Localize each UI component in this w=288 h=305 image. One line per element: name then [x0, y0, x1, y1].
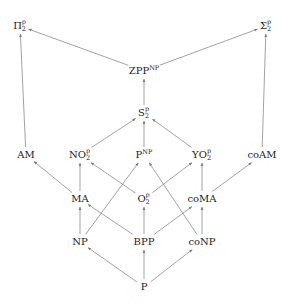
node-coAM: coAM	[247, 150, 276, 160]
node-superscript: NP	[149, 64, 159, 72]
node-scripts: p2	[145, 108, 150, 118]
edge-coMA-to-coAM	[212, 163, 251, 192]
node-superscript: NP	[142, 148, 152, 156]
node-PNP: PNP	[136, 150, 153, 160]
edge-ZPPNP-to-Sigma2	[160, 29, 258, 65]
node-S2: Sp2	[138, 108, 150, 118]
node-ZPPNP: ZPPNP	[129, 66, 159, 76]
node-label: NO	[69, 149, 86, 160]
node-subscript: 2	[22, 26, 26, 33]
edge-BPP-to-coMA	[154, 207, 192, 235]
node-label: Σ	[260, 20, 267, 31]
node-label: P	[141, 281, 148, 292]
edge-BPP-to-MA	[88, 204, 133, 234]
node-label: coNP	[188, 236, 215, 247]
node-MA: MA	[71, 194, 88, 204]
edge-O2-to-NO2	[91, 163, 136, 194]
node-Pi2: Πp2	[13, 21, 27, 31]
edge-coAM-to-Sigma2	[262, 34, 266, 147]
node-O2: Op2	[137, 194, 150, 204]
node-NP: NP	[72, 237, 87, 247]
node-label: S	[138, 107, 145, 118]
node-label: P	[136, 149, 143, 160]
edge-MA-to-AM	[34, 162, 72, 193]
node-label: YO	[192, 149, 207, 160]
edge-ZPPNP-to-Pi2	[29, 29, 129, 65]
node-label: coMA	[187, 193, 216, 204]
node-scripts: p2	[267, 21, 272, 31]
node-label: O	[137, 193, 145, 204]
complexity-diagram: Πp2Σp2ZPPNPSp2AMNOp2PNPYOp2coAMMAOp2coMA…	[0, 0, 288, 305]
edge-P-to-coNP	[151, 250, 192, 282]
edge-NP-to-PNP	[86, 163, 139, 234]
edge-NO2-to-S2	[92, 119, 136, 148]
edge-AM-to-Pi2	[20, 34, 25, 147]
node-scripts: p2	[207, 150, 212, 160]
node-scripts: p2	[22, 21, 27, 31]
node-subscript: 2	[86, 155, 90, 162]
node-subscript: 2	[267, 26, 271, 33]
node-label: ZPP	[129, 65, 149, 76]
node-scripts: p2	[146, 194, 151, 204]
node-label: Π	[13, 20, 22, 31]
edge-YO2-to-S2	[152, 119, 191, 147]
edge-O2-to-YO2	[152, 163, 192, 193]
node-YO2: YOp2	[192, 150, 212, 160]
node-subscript: 2	[145, 113, 149, 120]
node-Sigma2: Σp2	[260, 21, 272, 31]
node-NO2: NOp2	[69, 150, 91, 160]
node-coNP: coNP	[188, 237, 215, 247]
node-label: AM	[17, 149, 34, 160]
node-label: NP	[72, 236, 87, 247]
node-subscript: 2	[146, 199, 150, 206]
edge-P-to-NP	[88, 248, 137, 283]
node-scripts: p2	[86, 150, 91, 160]
node-coMA: coMA	[187, 194, 216, 204]
node-label: BPP	[134, 236, 155, 247]
node-subscript: 2	[207, 155, 211, 162]
node-P: P	[141, 282, 148, 292]
node-label: coAM	[247, 149, 276, 160]
node-label: MA	[71, 193, 88, 204]
node-BPP: BPP	[134, 237, 155, 247]
node-AM: AM	[17, 150, 34, 160]
